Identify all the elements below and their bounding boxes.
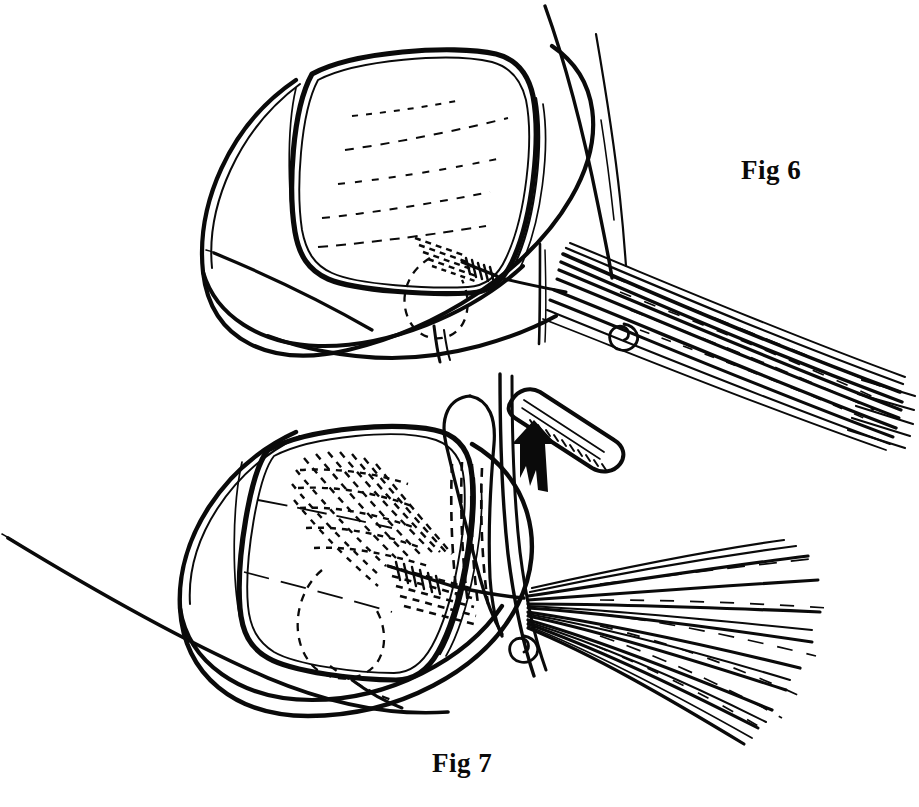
corneal-graft-fig6: [289, 50, 545, 294]
fig7-group: [2, 374, 828, 744]
needle-thread-vertical-fig6: [539, 244, 546, 344]
figure-6-caption: Fig 6: [741, 155, 801, 186]
direction-arrow-fig7: [512, 420, 556, 492]
suture-dashed-loop-fig6: [404, 258, 467, 338]
free-thread-lower-left: [2, 534, 448, 713]
figure-7-caption: Fig 7: [432, 748, 492, 779]
figure-sheet: Fig 6 Fig 7: [0, 0, 919, 807]
suture-spiral-fig7: [510, 636, 538, 662]
free-thread-upper-right: [545, 6, 626, 278]
suture-fan-fig7: [528, 540, 828, 744]
suture-bundle-fig6: [543, 243, 915, 450]
hidden-suture-dashes-fig6: [318, 100, 508, 247]
free-thread-upper-left: [206, 250, 372, 330]
hatched-suture-field-fig7: [292, 452, 452, 586]
thread-stub-fig6-inner: [444, 330, 450, 360]
figure-artwork: [0, 0, 919, 807]
lower-sweep-fig6: [268, 316, 556, 358]
fig6-group: [202, 6, 915, 450]
corneal-graft-fig7: [234, 426, 481, 680]
suture-entry-hatch-fig6: [415, 238, 478, 282]
